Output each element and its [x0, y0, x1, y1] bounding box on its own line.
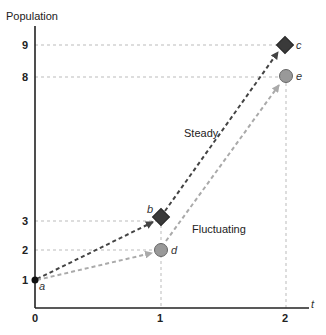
label-a: a	[39, 280, 45, 292]
y-tick-9: 9	[22, 39, 28, 51]
point-d-circle	[155, 244, 168, 257]
label-b: b	[147, 203, 153, 215]
y-axis-label: Population	[6, 10, 58, 22]
x-tick-1: 1	[157, 312, 163, 324]
guide-lines	[35, 45, 286, 308]
point-b-diamond	[153, 209, 170, 226]
y-tick-2: 2	[22, 244, 28, 256]
x-tick-2: 2	[282, 312, 288, 324]
x-tick-0: 0	[32, 312, 38, 324]
point-c-diamond	[277, 37, 294, 54]
label-e: e	[296, 70, 302, 82]
label-c: c	[296, 39, 302, 51]
y-tick-3: 3	[22, 215, 28, 227]
chart: 9 8 3 2 1 0 1 2 Population t a b d c e S…	[0, 0, 326, 335]
fluctuating-annotation: Fluctuating	[192, 223, 246, 235]
label-d: d	[171, 244, 178, 256]
point-e-circle	[280, 70, 293, 83]
y-tick-1: 1	[22, 274, 28, 286]
x-axis-label: t	[311, 298, 315, 310]
y-tick-8: 8	[22, 71, 28, 83]
point-a	[32, 277, 39, 284]
steady-annotation: Steady	[184, 127, 219, 139]
